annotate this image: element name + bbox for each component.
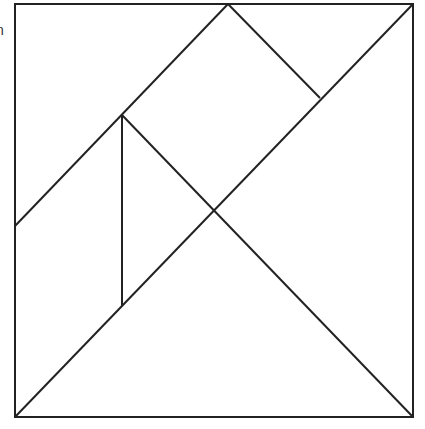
tangram-lines <box>15 4 413 417</box>
cross-diagonal-line <box>122 115 413 417</box>
top-square-right-edge-line <box>228 4 320 98</box>
tangram-diagram <box>0 0 425 429</box>
